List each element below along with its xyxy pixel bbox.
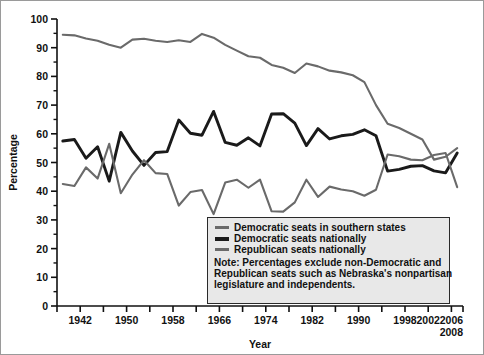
y-tick-label: 30: [36, 214, 48, 226]
x-tick-label: 1966: [208, 314, 232, 326]
x-tick-label: 1974: [254, 314, 278, 326]
chart-figure: 0102030405060708090100194219501958196619…: [0, 0, 484, 355]
series-line-1: [63, 111, 457, 181]
y-tick-label: 90: [36, 42, 48, 54]
legend-swatch-icon: [215, 226, 229, 229]
series-line-2: [63, 144, 457, 214]
x-tick-label: 1982: [301, 314, 325, 326]
legend-entry: Democratic seats nationally: [214, 233, 443, 244]
y-tick-label: 40: [36, 185, 48, 197]
legend-entry: Republican seats nationally: [214, 244, 443, 255]
y-tick-label: 0: [42, 300, 48, 312]
y-tick-label: 10: [36, 271, 48, 283]
y-tick-label: 80: [36, 70, 48, 82]
legend-swatch-icon: [215, 237, 229, 241]
y-tick-label: 100: [30, 13, 48, 25]
legend-swatch-icon: [215, 248, 229, 251]
legend-note-line: legislature and independents.: [214, 279, 443, 290]
x-tick-label: 1990: [347, 314, 371, 326]
x-tick-label: 2006: [440, 314, 464, 326]
y-tick-label: 50: [36, 157, 48, 169]
y-axis-title: Percentage: [7, 134, 19, 191]
x-tick-label: 1942: [69, 314, 93, 326]
legend-label: Democratic seats nationally: [234, 233, 366, 244]
x-tick-label: 1958: [161, 314, 185, 326]
legend-note-line: Note: Percentages exclude non-Democratic…: [214, 257, 443, 268]
x-tick-label: 1998: [393, 314, 417, 326]
x-axis-title: Year: [249, 338, 271, 350]
series-line-0: [63, 34, 457, 160]
legend-label: Republican seats nationally: [234, 244, 366, 255]
legend-note-line: Republican seats such as Nebraska's nonp…: [214, 268, 443, 279]
chart-legend: Democratic seats in southern statesDemoc…: [207, 217, 450, 304]
legend-label: Democratic seats in southern states: [234, 222, 406, 233]
y-tick-label: 60: [36, 128, 48, 140]
y-tick-label: 20: [36, 243, 48, 255]
y-tick-label: 70: [36, 99, 48, 111]
x-tick-label: 2008: [440, 326, 464, 338]
x-tick-label: 1950: [115, 314, 139, 326]
legend-entry: Democratic seats in southern states: [214, 222, 443, 233]
x-tick-label: 2002: [417, 314, 441, 326]
